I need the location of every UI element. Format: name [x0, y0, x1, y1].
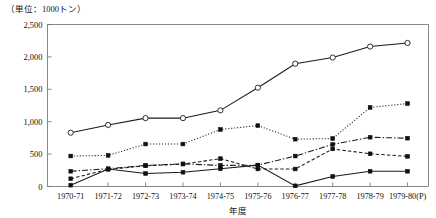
data-point-square: [256, 167, 260, 171]
data-point-square: [69, 169, 73, 173]
series-2: [69, 102, 410, 158]
x-tick-label: 1974-75: [207, 192, 234, 201]
data-point-square: [293, 137, 297, 141]
data-point-open-circle: [293, 61, 298, 66]
data-point-square: [181, 162, 185, 166]
x-axis: 1970-711971-721972-731973-741974-751975-…: [57, 183, 426, 201]
data-point-open-circle: [218, 108, 223, 113]
data-point-square: [106, 167, 110, 171]
data-point-square: [106, 154, 110, 158]
data-point-square: [368, 152, 372, 156]
series-layer: [68, 40, 410, 187]
series-line: [71, 104, 408, 156]
data-point-open-circle: [330, 55, 335, 60]
data-point-square: [219, 167, 223, 171]
data-point-square: [256, 163, 260, 167]
x-axis-title: 年度: [229, 206, 247, 216]
data-point-square: [144, 172, 148, 176]
data-point-square: [256, 124, 260, 128]
data-point-square: [406, 136, 410, 140]
data-point-open-circle: [106, 122, 111, 127]
data-point-square: [331, 147, 335, 151]
data-point-square: [144, 164, 148, 168]
y-tick-label: 0: [38, 182, 42, 192]
data-point-square: [219, 157, 223, 161]
data-point-square: [181, 170, 185, 174]
data-point-square: [181, 142, 185, 146]
data-point-square: [368, 169, 372, 173]
data-point-square: [293, 167, 297, 171]
x-tick-label: 1970-71: [57, 192, 84, 201]
y-tick-label: 500: [30, 149, 43, 159]
x-tick-label: 1978-79: [356, 192, 383, 201]
data-point-open-circle: [180, 116, 185, 121]
data-point-square: [144, 142, 148, 146]
data-point-square: [69, 177, 73, 181]
x-tick-label: 1979-80(P): [389, 192, 427, 201]
data-point-square: [406, 169, 410, 173]
x-tick-label: 1971-72: [94, 192, 121, 201]
data-point-square: [368, 135, 372, 139]
data-point-open-circle: [68, 130, 73, 135]
data-point-open-circle: [143, 116, 148, 121]
series-line: [71, 43, 408, 133]
x-tick-label: 1976-77: [282, 192, 309, 201]
data-point-square: [331, 143, 335, 147]
series-line: [71, 137, 408, 171]
y-tick-label: 1,500: [23, 84, 42, 94]
chart-container: （単位：1000トン） 05001,0001,5002,0002,500 197…: [0, 0, 436, 218]
x-tick-label: 1975-76: [244, 192, 271, 201]
data-point-square: [331, 137, 335, 141]
data-point-square: [219, 128, 223, 132]
x-tick-label: 1972-73: [132, 192, 159, 201]
data-point-square: [293, 184, 297, 188]
data-point-square: [406, 102, 410, 106]
data-point-square: [331, 175, 335, 179]
data-point-square: [69, 183, 73, 187]
series-line: [71, 149, 408, 179]
data-point-open-circle: [405, 40, 410, 45]
series-5: [69, 163, 410, 187]
y-tick-label: 2,000: [23, 52, 42, 62]
data-point-open-circle: [368, 44, 373, 49]
y-tick-label: 1,000: [23, 117, 42, 127]
x-tick-label: 1973-74: [169, 192, 196, 201]
x-tick-label: 1977-78: [319, 192, 346, 201]
y-tick-label: 2,500: [23, 20, 42, 30]
series-3: [69, 135, 410, 173]
data-point-square: [69, 154, 73, 158]
line-chart-svg: 05001,0001,5002,0002,500 1970-711971-721…: [0, 0, 436, 218]
data-point-square: [293, 154, 297, 158]
data-point-square: [368, 106, 372, 110]
data-point-square: [406, 155, 410, 159]
data-point-open-circle: [255, 85, 260, 90]
series-4: [69, 147, 410, 181]
series-1: [68, 40, 410, 135]
